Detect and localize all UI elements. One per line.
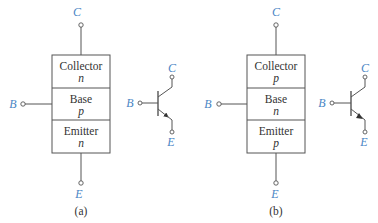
symbol-emitter-lead <box>167 116 172 130</box>
symbol-base-node <box>138 101 142 105</box>
caption-b: (b) <box>269 205 283 218</box>
pnp-transistor-symbol: C B E <box>318 61 370 149</box>
diagram-a-npn: C Collector n Base p Emitter n B E (a) <box>9 5 177 218</box>
doping-type: p <box>272 137 279 150</box>
symbol-base-label: B <box>126 96 134 110</box>
region-name: Base <box>70 93 92 105</box>
structure-emitter-terminal-label: E <box>74 187 83 201</box>
symbol-collector-node <box>170 75 174 79</box>
structure-base-terminal-label: B <box>204 97 212 111</box>
symbol-collector-lead <box>351 79 365 97</box>
region-name: Collector <box>255 60 298 72</box>
base-terminal-node <box>21 102 25 106</box>
symbol-collector-node <box>363 75 367 79</box>
region-name: Base <box>265 93 287 105</box>
doping-type: n <box>78 72 84 84</box>
structure-collector-terminal-label: C <box>272 5 281 19</box>
caption-a: (a) <box>75 205 88 218</box>
symbol-emitter-label: E <box>359 135 368 149</box>
structure-base-terminal-label: B <box>9 97 17 111</box>
collector-terminal-node <box>274 23 278 27</box>
symbol-emitter-label: E <box>166 135 175 149</box>
symbol-emitter-node <box>170 130 174 134</box>
symbol-collector-label: C <box>361 61 370 75</box>
symbol-base-label: B <box>318 96 326 110</box>
base-terminal-node <box>217 102 221 106</box>
emitter-terminal-node <box>79 181 83 185</box>
symbol-emitter-lead <box>351 109 365 130</box>
symbol-collector-lead <box>158 79 172 97</box>
npn-transistor-symbol: C B E <box>126 61 177 149</box>
structure-collector-terminal-label: C <box>73 5 82 19</box>
region-name: Collector <box>60 60 103 72</box>
symbol-base-node <box>330 101 334 105</box>
emitter-terminal-node <box>274 181 278 185</box>
doping-type: p <box>272 72 279 85</box>
structure-emitter-terminal-label: E <box>270 187 279 201</box>
doping-type: n <box>78 137 84 149</box>
symbol-emitter-node <box>363 130 367 134</box>
emitter-arrow-icon <box>158 109 168 117</box>
diagram-b-pnp: C Collector p Base n Emitter p B E (b) C <box>204 5 370 218</box>
doping-type: n <box>273 105 279 117</box>
bjt-structure-diagram: C Collector n Base p Emitter n B E (a) <box>0 0 378 223</box>
region-name: Emitter <box>259 125 294 137</box>
collector-terminal-node <box>79 23 83 27</box>
doping-type: p <box>77 105 84 118</box>
symbol-collector-label: C <box>168 61 177 75</box>
region-name: Emitter <box>64 125 99 137</box>
